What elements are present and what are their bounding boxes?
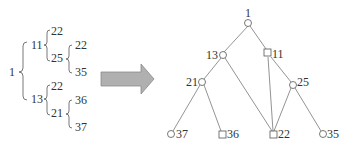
node-circle-21 — [199, 79, 206, 86]
graph-label: 22 — [278, 127, 290, 141]
root-brace — [19, 42, 27, 100]
node-circle-25 — [290, 82, 297, 89]
node-circle-13 — [220, 52, 227, 59]
node-label: 22 — [51, 24, 63, 38]
node-label: 36 — [75, 93, 87, 107]
graph-label: 11 — [272, 47, 284, 61]
node-square-11 — [264, 49, 271, 56]
node-circle-35 — [320, 131, 327, 138]
node-label: 22 — [51, 79, 63, 93]
graph-label: 36 — [227, 127, 239, 141]
node-label: 13 — [31, 92, 43, 106]
node-circle-37 — [168, 131, 175, 138]
graph-label: 35 — [327, 127, 339, 141]
node-label: 37 — [75, 120, 87, 134]
brace-tree — [19, 30, 72, 128]
node-label: 35 — [75, 65, 87, 79]
node-square-22 — [270, 131, 277, 138]
graph-label: 21 — [186, 75, 198, 89]
diagram-canvas: 1 11 22 25 22 35 13 22 21 36 37 — [0, 0, 346, 151]
graph-label: 25 — [297, 75, 309, 89]
arrow-icon — [101, 64, 154, 94]
node-label: 25 — [51, 51, 63, 65]
brace-21 — [66, 100, 72, 128]
brace-13 — [44, 85, 50, 115]
graph-label: 37 — [176, 127, 188, 141]
brace-tree-labels: 1 11 22 25 22 35 13 22 21 36 37 — [9, 24, 87, 134]
node-label: 11 — [31, 38, 43, 52]
node-circle-1 — [245, 20, 252, 27]
node-label: 22 — [75, 38, 87, 52]
node-label: 1 — [9, 65, 15, 79]
node-label: 21 — [51, 106, 63, 120]
graph-label: 1 — [245, 6, 251, 20]
brace-11 — [44, 30, 50, 61]
brace-25 — [66, 45, 72, 73]
graph-label: 13 — [206, 48, 218, 62]
node-square-36 — [219, 131, 226, 138]
